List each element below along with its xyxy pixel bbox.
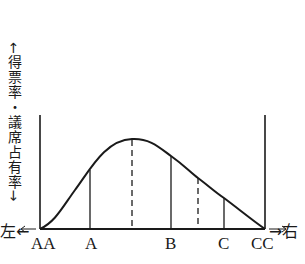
left-label: 左← — [0, 218, 29, 242]
label-b: B — [165, 234, 176, 254]
label-aa: AA — [31, 234, 56, 254]
label-c: C — [218, 234, 229, 254]
y-axis-label: ←得票率・議席占有率→ — [4, 22, 24, 222]
label-cc: CC — [251, 234, 274, 254]
distribution-diagram — [0, 0, 305, 264]
label-a: A — [85, 234, 97, 254]
distribution-curve — [40, 139, 265, 229]
